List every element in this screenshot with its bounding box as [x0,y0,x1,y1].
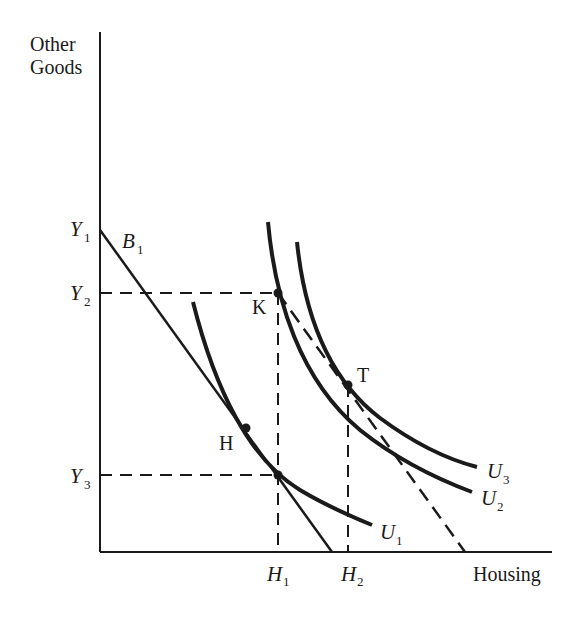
svg-text:1: 1 [283,574,290,589]
x-axis-label: Housing [473,563,541,586]
point-t-label: T [357,364,369,386]
u2-label: U 2 [481,486,504,514]
svg-text:B: B [122,229,135,253]
svg-text:H: H [266,562,284,586]
point-t-marker [344,381,353,390]
svg-text:Y: Y [70,464,84,488]
point-h-label: H [219,432,233,454]
y1-label: Y 1 [70,217,91,245]
svg-text:2: 2 [497,499,504,514]
u3-label: U 3 [487,459,510,487]
svg-text:1: 1 [137,242,144,257]
point-k-label: K [252,296,267,318]
indifference-curve-u3 [297,242,477,467]
y-axis-label-line1: Other [30,33,76,55]
u1-label: U 1 [380,520,403,548]
y2-label: Y 2 [70,281,91,309]
svg-text:2: 2 [84,294,91,309]
svg-text:Y: Y [70,217,84,241]
svg-text:U: U [481,486,498,510]
h1-label: H 1 [266,562,290,589]
budget-line-dashed [278,293,465,552]
svg-text:H: H [340,562,358,586]
svg-text:3: 3 [503,472,510,487]
svg-text:U: U [487,459,504,483]
svg-text:3: 3 [84,477,91,492]
y-axis-label-line2: Goods [30,56,82,78]
point-h1-y3-marker [274,471,283,480]
b1-label: B 1 [122,229,144,257]
svg-text:1: 1 [396,533,403,548]
y3-label: Y 3 [70,464,91,492]
indifference-diagram: Other Goods Housing K T H Y 1 Y 2 Y 3 H … [0,0,581,621]
svg-text:1: 1 [84,230,91,245]
point-h-marker [242,424,251,433]
h2-label: H 2 [340,562,364,589]
svg-text:U: U [380,520,397,544]
budget-line-b1 [100,230,332,552]
svg-text:Y: Y [70,281,84,305]
svg-text:2: 2 [357,574,364,589]
point-k-marker [274,289,283,298]
